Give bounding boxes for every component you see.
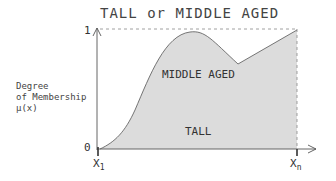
x-start-label: X1: [93, 157, 104, 170]
y-axis-label: Degree of Membership μ(x): [16, 81, 86, 114]
x-start-sub: 1: [100, 163, 105, 172]
x-end-label: Xn: [290, 157, 301, 170]
y-axis-label-line-1: Degree: [16, 81, 86, 92]
y-axis-label-line-2: of Membership: [16, 92, 86, 103]
x-end-sub: n: [297, 163, 302, 172]
y-axis-label-line-3: μ(x): [16, 103, 86, 114]
region-label-tall: TALL: [185, 125, 212, 138]
y-tick-zero: 0: [84, 141, 91, 154]
x-end-main: X: [290, 157, 297, 170]
region-label-middle-aged: MIDDLE AGED: [162, 68, 235, 81]
y-tick-one: 1: [84, 24, 91, 37]
x-start-main: X: [93, 157, 100, 170]
diagram-title: TALL or MIDDLE AGED: [100, 5, 279, 21]
